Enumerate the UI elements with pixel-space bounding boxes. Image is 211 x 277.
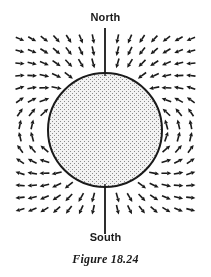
figure-container: North South Figure 18.24 [0, 0, 211, 277]
north-pole-label: North [0, 12, 211, 23]
figure-caption: Figure 18.24 [0, 253, 211, 265]
south-pole-label: South [0, 232, 211, 243]
